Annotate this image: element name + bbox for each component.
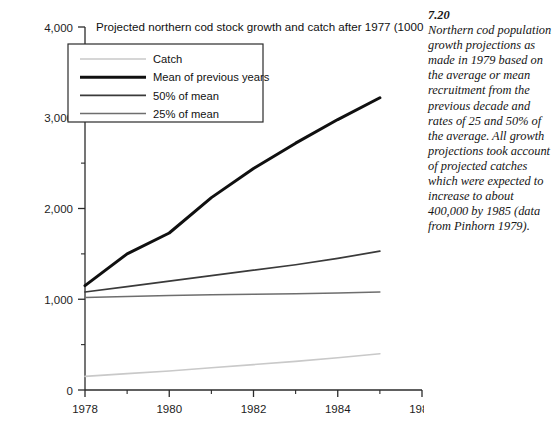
caption-text: Northern cod population growth projectio…: [428, 23, 554, 234]
y-tick-label: 0: [67, 385, 73, 397]
figure-page: 01,0002,0003,0004,0001978198019821984198…: [0, 0, 559, 437]
y-tick-label: 1,000: [44, 294, 73, 306]
series-line-mean-of-previous-years: [85, 98, 380, 286]
x-tick-label: 1978: [72, 403, 98, 415]
y-tick-label: 2,000: [44, 203, 73, 215]
legend-label-1: Catch: [153, 53, 182, 65]
series-line-catch: [85, 354, 380, 377]
x-tick-label: 1982: [241, 403, 267, 415]
x-tick-label: 1986: [409, 403, 424, 415]
x-tick-label: 1984: [325, 403, 351, 415]
chart-title: Projected northern cod stock growth and …: [96, 20, 424, 33]
legend-label-3: 50% of mean: [153, 90, 219, 102]
series-line-50-of-mean: [85, 251, 380, 292]
chart-figure: 01,0002,0003,0004,0001978198019821984198…: [0, 0, 424, 437]
caption-number: 7.20: [428, 8, 554, 23]
y-tick-label: 4,000: [44, 22, 73, 34]
figure-caption: 7.20 Northern cod population growth proj…: [428, 8, 554, 234]
x-tick-label: 1980: [156, 403, 182, 415]
series-line-25-of-mean: [85, 292, 380, 297]
legend-label-2: Mean of previous years: [153, 71, 270, 83]
legend-label-4: 25% of mean: [153, 108, 219, 120]
line-chart: 01,0002,0003,0004,0001978198019821984198…: [0, 0, 424, 437]
